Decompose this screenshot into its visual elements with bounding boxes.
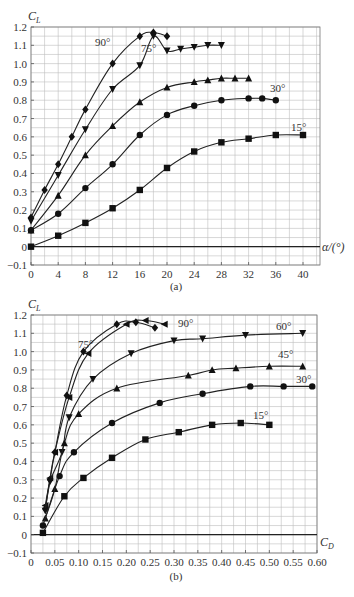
circle-marker-icon [199, 391, 205, 397]
diamond-marker-icon [137, 32, 143, 40]
x-tick-label: 0.20 [117, 556, 137, 568]
chart-caption: (a) [170, 280, 183, 293]
triangle-up-marker-icon [136, 98, 143, 105]
square-marker-icon [218, 139, 224, 145]
series-label: 90° [95, 36, 110, 48]
series-label: 30° [270, 82, 285, 94]
chart-b-cl-vs-cd: 00.050.100.150.200.250.300.350.400.450.5… [7, 297, 334, 583]
y-tick-label: 0.2 [13, 492, 27, 504]
series-label: 75° [141, 42, 156, 54]
y-tick-label: 0.1 [13, 510, 27, 522]
series-30deg: 30° [28, 82, 286, 233]
series-label: 15° [291, 121, 306, 133]
y-tick-label: 0 [22, 241, 28, 253]
circle-marker-icon [55, 211, 61, 217]
circle-marker-icon [218, 97, 224, 103]
circle-marker-icon [273, 97, 279, 103]
series-label: 30° [296, 373, 311, 385]
y-tick-label: 0.9 [13, 364, 27, 376]
circle-marker-icon [247, 383, 253, 389]
series-30deg: 30° [40, 373, 316, 529]
x-tick-label: 0.05 [45, 556, 65, 568]
x-tick-label: 32 [243, 268, 254, 280]
x-axis-title: α/(°) [322, 240, 344, 254]
x-tick-label: 0.55 [284, 556, 304, 568]
square-marker-icon [28, 243, 34, 249]
series-label: 90° [178, 317, 193, 329]
circle-marker-icon [71, 449, 77, 455]
square-marker-icon [109, 205, 115, 211]
square-marker-icon [238, 420, 244, 426]
square-marker-icon [137, 187, 143, 193]
x-tick-label: 0.45 [236, 556, 256, 568]
square-marker-icon [191, 148, 197, 154]
y-tick-label: 1.2 [13, 21, 27, 33]
x-tick-label: 0.30 [164, 556, 184, 568]
x-tick-label: 12 [107, 268, 118, 280]
x-axis-title: CD [320, 535, 334, 551]
square-marker-icon [142, 436, 148, 442]
square-marker-icon [61, 493, 67, 499]
y-tick-label: 0.2 [13, 204, 27, 216]
circle-marker-icon [28, 227, 34, 233]
series-15deg: 15° [40, 409, 273, 536]
x-tick-label: 16 [134, 268, 146, 280]
y-tick-label: 1.1 [13, 39, 27, 51]
series-label: 15° [253, 409, 268, 421]
y-tick-label: 0.6 [13, 131, 27, 143]
x-tick-label: 0.10 [69, 556, 89, 568]
square-marker-icon [109, 455, 115, 461]
x-tick-label: 4 [55, 268, 61, 280]
chart-a-cl-vs-alpha: 0481216202428323640−0.100.10.20.30.40.50… [7, 9, 344, 293]
square-marker-icon [245, 135, 251, 141]
square-marker-icon [55, 233, 61, 239]
chart-caption: (b) [170, 570, 183, 583]
y-tick-label: 0.4 [13, 167, 27, 179]
square-marker-icon [80, 475, 86, 481]
circle-marker-icon [164, 112, 170, 118]
y-tick-label: 1.2 [13, 309, 27, 321]
square-marker-icon [209, 422, 215, 428]
x-tick-label: 0.15 [93, 556, 113, 568]
circle-marker-icon [280, 383, 286, 389]
y-axis-title: CL [28, 297, 41, 313]
diamond-marker-icon [82, 105, 88, 113]
series-label: 60° [276, 320, 291, 332]
circle-marker-icon [191, 103, 197, 109]
square-marker-icon [164, 165, 170, 171]
y-tick-label: 0.5 [13, 437, 27, 449]
y-tick-label: 0.1 [13, 222, 27, 234]
grid-lines [31, 315, 317, 553]
diamond-marker-icon [164, 32, 170, 40]
triangle-down-marker-icon [128, 350, 135, 357]
circle-marker-icon [56, 473, 62, 479]
figure: 0481216202428323640−0.100.10.20.30.40.50… [0, 0, 354, 597]
circle-marker-icon [109, 161, 115, 167]
series-label: 75° [78, 338, 93, 350]
circle-marker-icon [157, 400, 163, 406]
x-tick-label: 0.60 [307, 556, 327, 568]
x-tick-label: 0.25 [141, 556, 161, 568]
x-tick-label: 8 [83, 268, 89, 280]
y-tick-label: −0.1 [7, 259, 27, 271]
circle-marker-icon [137, 132, 143, 138]
diamond-marker-icon [152, 324, 158, 332]
square-marker-icon [273, 132, 279, 138]
x-tick-label: 28 [216, 268, 228, 280]
y-tick-label: 1.1 [13, 327, 27, 339]
y-tick-label: 0.9 [13, 76, 27, 88]
x-tick-label: 36 [270, 268, 282, 280]
y-tick-label: 0.6 [13, 419, 27, 431]
y-tick-label: 0.3 [13, 186, 27, 198]
x-tick-label: 0 [28, 556, 34, 568]
x-tick-label: 0.40 [212, 556, 232, 568]
y-tick-label: 0.4 [13, 455, 27, 467]
diamond-marker-icon [41, 186, 47, 194]
triangle-up-marker-icon [164, 84, 171, 91]
square-marker-icon [40, 530, 46, 536]
triangle-down-marker-icon [47, 478, 54, 485]
triangle-down-marker-icon [28, 218, 35, 225]
x-tick-label: 0.50 [260, 556, 280, 568]
diamond-marker-icon [69, 133, 75, 141]
x-tick-label: 0 [28, 268, 34, 280]
